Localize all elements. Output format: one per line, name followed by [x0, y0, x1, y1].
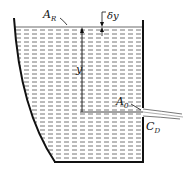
tank-diagram: AR δy y A0 CD: [0, 0, 191, 174]
label-surface-area: AR: [42, 8, 57, 23]
orifice-jet: [143, 109, 183, 119]
label-discharge-coefficient: CD: [146, 120, 160, 135]
surface-area-leader: [60, 18, 67, 25]
label-height-y: y: [75, 63, 83, 76]
water-body: [10, 27, 150, 163]
label-delta-y: δy: [107, 10, 119, 21]
